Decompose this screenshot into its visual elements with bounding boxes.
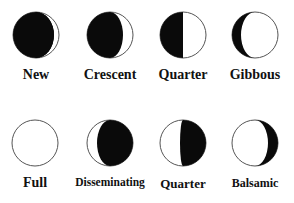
phase-label: Gibbous: [218, 67, 292, 83]
phase-label: Full: [0, 175, 72, 191]
phase-first-quarter: Quarter: [146, 11, 220, 83]
phase-disseminating: Disseminating: [73, 119, 147, 193]
moon-crescent-icon: [86, 11, 134, 59]
phase-crescent: Crescent: [73, 11, 147, 83]
phase-label: New: [0, 67, 73, 83]
moon-new-icon: [12, 11, 60, 59]
phase-new: New: [0, 11, 73, 83]
phase-balsamic: Balsamic: [218, 119, 292, 193]
phase-gibbous: Gibbous: [218, 11, 292, 83]
phase-label: Disseminating: [73, 176, 147, 188]
moon-first-quarter-icon: [159, 11, 207, 59]
phase-label: Quarter: [146, 67, 220, 83]
phase-full: Full: [0, 119, 72, 193]
phase-label: Balsamic: [218, 176, 292, 191]
moon-last-quarter-icon: [159, 119, 207, 167]
phase-label: Crescent: [73, 67, 147, 83]
phase-label: Quarter: [146, 176, 220, 192]
moon-full-icon: [11, 119, 59, 167]
phase-last-quarter: Quarter: [146, 119, 220, 193]
moon-disseminating-icon: [86, 119, 134, 167]
moon-balsamic-icon: [231, 119, 279, 167]
moon-gibbous-icon: [231, 11, 279, 59]
